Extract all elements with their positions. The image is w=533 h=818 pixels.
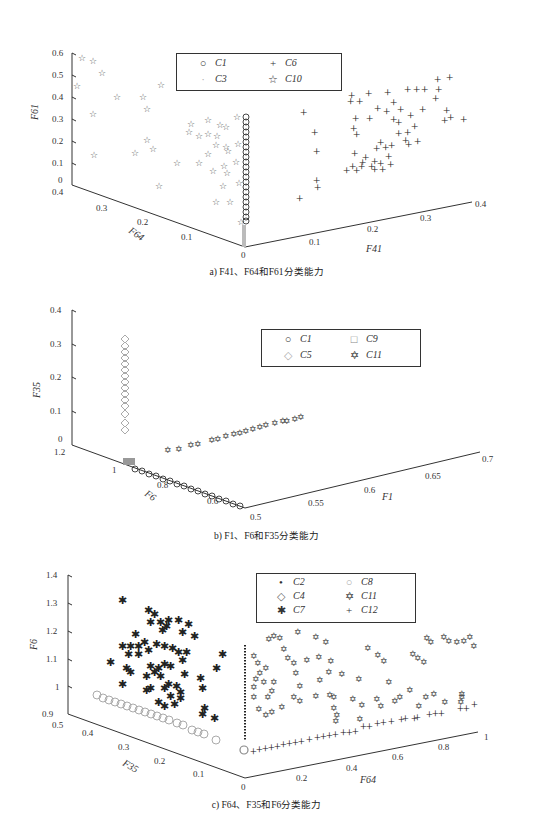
svg-text:✡: ✡ [396, 692, 404, 702]
svg-text:☆: ☆ [173, 158, 181, 168]
svg-text:0: 0 [58, 434, 63, 444]
svg-text:+: + [379, 162, 386, 177]
svg-text:✡: ✡ [292, 668, 300, 678]
legend-item-c4: ◇ C4 [275, 590, 305, 601]
legend-item-c1: ○ C1 [282, 333, 312, 344]
svg-text:☆: ☆ [204, 129, 212, 139]
svg-text:✡: ✡ [422, 692, 430, 702]
svg-text:✱: ✱ [190, 630, 199, 642]
svg-text:✡: ✡ [297, 412, 305, 422]
legend-item-c10: ☆ C10 [267, 73, 302, 84]
svg-text:☆: ☆ [224, 146, 232, 156]
svg-text:0.2: 0.2 [50, 372, 61, 382]
svg-text:✡: ✡ [445, 636, 453, 646]
svg-text:1.3: 1.3 [46, 598, 58, 608]
svg-text:✡: ✡ [322, 637, 330, 647]
diamond-icon: ◇ [275, 591, 287, 601]
svg-text:✡: ✡ [296, 696, 304, 706]
svg-text:0.5: 0.5 [250, 512, 262, 522]
svg-text:1.2: 1.2 [54, 447, 65, 457]
svg-text:+: + [306, 733, 313, 747]
svg-text:0.6: 0.6 [364, 485, 376, 495]
svg-text:0.8: 0.8 [438, 742, 450, 752]
panel-c-legend: • C2 ○ C8 ◇ C4 ✡ C11 ✱ C7 + C12 [256, 573, 416, 623]
svg-text:✱: ✱ [118, 594, 127, 606]
series-c9 [123, 458, 135, 465]
svg-text:✡: ✡ [420, 657, 428, 667]
svg-text:0.5: 0.5 [52, 70, 64, 80]
panel-b-legend: ○ C1 □ C9 ◇ C5 ✡ C11 [261, 329, 421, 367]
svg-text:+: + [365, 86, 372, 101]
svg-text:✱: ✱ [218, 648, 227, 660]
legend-item-c6: + C6 [267, 57, 297, 68]
svg-text:+: + [314, 180, 321, 195]
svg-text:☆: ☆ [234, 139, 242, 149]
svg-text:0.65: 0.65 [425, 471, 441, 481]
svg-text:+: + [402, 712, 409, 726]
svg-text:0.3: 0.3 [118, 742, 130, 752]
legend-item-c8: ○ C8 [343, 576, 373, 587]
svg-text:0.1: 0.1 [50, 406, 61, 416]
svg-text:0: 0 [241, 250, 246, 260]
svg-text:☆: ☆ [233, 112, 241, 122]
svg-text:+: + [356, 94, 363, 109]
svg-text:✡: ✡ [427, 637, 435, 647]
svg-text:✡: ✡ [250, 682, 258, 692]
svg-text:✱: ✱ [124, 648, 133, 660]
svg-text:✱: ✱ [178, 654, 187, 666]
legend-item-c9: □ C9 [348, 333, 378, 344]
svg-text:✡: ✡ [268, 686, 276, 696]
svg-text:✱: ✱ [142, 684, 151, 696]
svg-text:+: + [311, 125, 318, 140]
z-axis-label: F6 [28, 639, 39, 651]
z-axis-label: F61 [29, 104, 40, 121]
svg-text:+: + [343, 163, 350, 178]
svg-text:✡: ✡ [441, 697, 449, 707]
svg-text:0.1: 0.1 [52, 158, 63, 168]
svg-text:✡: ✡ [330, 692, 338, 702]
svg-text:+: + [380, 716, 387, 730]
svg-text:+: + [404, 82, 411, 97]
svg-text:+: + [332, 728, 339, 742]
svg-text:✡: ✡ [380, 656, 388, 666]
panel-c-caption: c) F64、F35和F6分类能力 [0, 797, 533, 811]
svg-text:+: + [347, 94, 354, 109]
legend-item-c7: ✱ C7 [275, 604, 305, 615]
svg-text:0.6: 0.6 [392, 752, 404, 762]
svg-text:✡: ✡ [268, 707, 276, 717]
svg-text:✡: ✡ [175, 444, 183, 454]
svg-text:+: + [300, 105, 307, 120]
svg-text:+: + [421, 82, 428, 97]
x-axis-label: F64 [359, 774, 376, 785]
svg-text:✱: ✱ [180, 668, 189, 680]
svg-text:0: 0 [58, 175, 63, 185]
dot-icon: • [275, 577, 287, 587]
svg-text:0.4: 0.4 [82, 728, 94, 738]
y-axis-label: F35 [120, 757, 140, 775]
svg-text:✡: ✡ [385, 677, 393, 687]
svg-text:✡: ✡ [276, 633, 284, 643]
svg-text:✡: ✡ [470, 641, 478, 651]
z-axis-label: F35 [31, 382, 42, 399]
svg-text:✡: ✡ [358, 700, 366, 710]
svg-text:✡: ✡ [312, 632, 320, 642]
svg-text:✡: ✡ [315, 652, 323, 662]
svg-text:0.2: 0.2 [154, 756, 165, 766]
panel-a-plot: 0.60.5 0.40.3 0.20.1 0 0.40.3 0.20.1 0 0… [0, 0, 533, 280]
series-c1 [243, 114, 249, 224]
svg-text:0.7: 0.7 [482, 454, 494, 464]
svg-text:✱: ✱ [166, 660, 175, 672]
plus-icon: + [267, 58, 279, 68]
svg-text:✡: ✡ [296, 681, 304, 691]
svg-text:✱: ✱ [126, 666, 135, 678]
svg-text:1: 1 [112, 465, 117, 475]
svg-text:✡: ✡ [270, 677, 278, 687]
svg-text:✱: ✱ [210, 712, 219, 724]
svg-text:0.3: 0.3 [420, 213, 432, 223]
svg-text:☆: ☆ [223, 168, 231, 178]
svg-text:+: + [366, 720, 373, 734]
x-axis-label: F1 [381, 491, 393, 502]
svg-text:+: + [446, 70, 453, 85]
svg-text:+: + [411, 119, 418, 134]
svg-text:+: + [438, 707, 445, 721]
